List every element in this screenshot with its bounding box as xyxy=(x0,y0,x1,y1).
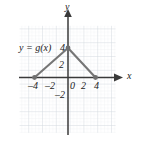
function-label: y = g(x) xyxy=(19,43,51,53)
x-tick-label-neg4: –4 xyxy=(28,81,38,91)
y-tick-label-4: 4 xyxy=(60,43,65,53)
x-tick-label-4: 4 xyxy=(94,81,99,91)
y-tick-label-2: 2 xyxy=(59,60,64,70)
x-tick-label-zero: 0 xyxy=(70,81,75,91)
x-tick-label-2: 2 xyxy=(81,81,86,91)
x-tick-label-neg2: –2 xyxy=(45,81,55,91)
graph-figure: y = g(x) y x –4 –2 0 2 4 4 2 –2 xyxy=(0,0,145,143)
y-tick-label-neg2: –2 xyxy=(55,90,65,100)
y-axis-name: y xyxy=(65,2,69,12)
x-axis-name: x xyxy=(127,71,131,81)
plot-canvas xyxy=(0,0,145,143)
